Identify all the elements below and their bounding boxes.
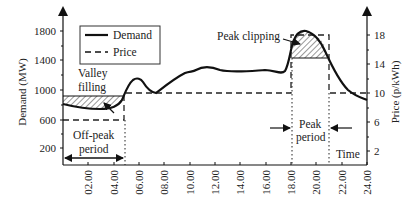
peak-period-label-2: period	[296, 131, 326, 144]
y-tick-1000: 1000	[34, 84, 57, 96]
x-tick-0800: 08.00	[158, 170, 170, 195]
x-tick-1600: 16.00	[260, 170, 272, 195]
right-axis-arrow-icon	[362, 6, 372, 16]
peak-clipping-label: Peak clipping	[217, 30, 280, 43]
offpeak-label-1: Off-peak	[73, 129, 115, 142]
valley-filling-label-2: filling	[78, 81, 106, 94]
valley-filling-label-1: Valley	[78, 67, 108, 80]
y2-tick-2: 2	[374, 145, 380, 157]
x-tick-0200: 02.00	[82, 170, 94, 195]
y2-tick-14: 14	[374, 58, 386, 70]
y-tick-1400: 1400	[34, 54, 57, 66]
x-tick-0600: 06.00	[133, 170, 145, 195]
peak-period-label-1: Peak	[299, 118, 322, 130]
legend-demand-label: Demand	[113, 29, 152, 41]
y-axis-title: Demand (MW)	[16, 58, 29, 126]
x-tick-0400: 04.00	[108, 170, 120, 195]
time-label: Time	[336, 148, 360, 160]
y2-axis-title: Price (p/kWh)	[389, 60, 402, 123]
legend-price-label: Price	[113, 46, 137, 58]
legend: Demand Price	[80, 26, 160, 64]
y2-tick-6: 6	[374, 116, 380, 128]
offpeak-label-2: period	[79, 143, 109, 156]
x-tick-1200: 12.00	[209, 170, 221, 195]
x-tick-2200: 22.00	[336, 170, 348, 195]
demand-price-chart: 1800 1400 1000 600 200 18 14 10 6 2 02.0…	[0, 0, 415, 208]
x-tick-1800: 18.00	[285, 170, 297, 195]
y-tick-1800: 1800	[34, 25, 57, 37]
left-axis-arrow-icon	[58, 6, 68, 16]
y-tick-200: 200	[40, 142, 57, 154]
x-tick-1400: 14.00	[234, 170, 246, 195]
x-tick-1000: 10.00	[184, 170, 196, 195]
y2-tick-10: 10	[374, 87, 386, 99]
y2-tick-18: 18	[374, 29, 386, 41]
x-tick-2400: 24.00	[361, 170, 373, 195]
x-tick-2000: 20.00	[310, 170, 322, 195]
y-tick-600: 600	[40, 114, 57, 126]
